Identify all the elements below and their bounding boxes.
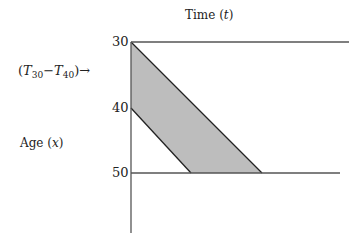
age-axis-text: Age [20,136,43,150]
cohort-label: (T30−T40)→ [18,63,90,80]
tick-40: 40 [112,100,129,115]
time-axis-text: Time [185,8,215,22]
tick-50: 50 [112,165,129,180]
minus-sign: − [43,63,54,78]
lexis-diagram [0,0,364,246]
age-axis-var: x [52,136,59,150]
subscript-40: 40 [63,70,74,80]
t-symbol-1: T [23,63,32,78]
time-axis-title: Time (t) [185,8,233,22]
t-symbol-2: T [54,63,63,78]
subscript-30: 30 [32,70,43,80]
age-axis-title: Age (x) [20,136,63,150]
time-axis-var: t [224,8,229,22]
right-arrow-icon: → [79,63,90,78]
tick-30: 30 [112,34,129,49]
